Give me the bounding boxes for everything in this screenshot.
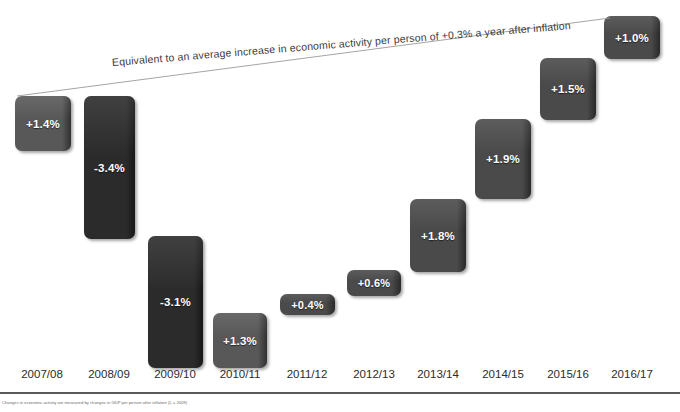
axis-tick-2016-17: 2016/17 bbox=[611, 368, 653, 380]
bar-2016-17: +1.0% bbox=[604, 16, 660, 59]
axis-tick-2008-09: 2008/09 bbox=[88, 368, 130, 380]
bar-2008-09: -3.4% bbox=[84, 96, 135, 239]
axis-rule bbox=[0, 392, 680, 394]
axis-tick-2015-16: 2015/16 bbox=[547, 368, 589, 380]
bar-2013-14: +1.8% bbox=[410, 199, 466, 272]
bar-value-label: +1.5% bbox=[551, 83, 585, 95]
x-axis-labels: 2007/082008/092009/102010/112011/122012/… bbox=[0, 368, 680, 392]
bar-2010-11: +1.3% bbox=[213, 313, 267, 368]
bar-value-label: +1.9% bbox=[486, 153, 520, 165]
axis-tick-2013-14: 2013/14 bbox=[417, 368, 459, 380]
bar-value-label: -3.1% bbox=[160, 296, 191, 308]
bar-value-label: +1.8% bbox=[421, 230, 455, 242]
axis-tick-2012-13: 2012/13 bbox=[353, 368, 395, 380]
bar-value-label: +0.6% bbox=[358, 277, 391, 289]
axis-tick-2010-11: 2010/11 bbox=[220, 368, 261, 380]
bar-value-label: +0.4% bbox=[291, 299, 324, 311]
bar-value-label: +1.4% bbox=[26, 118, 60, 130]
bar-value-label: -3.4% bbox=[94, 162, 125, 174]
bar-2014-15: +1.9% bbox=[475, 119, 531, 199]
axis-tick-2014-15: 2014/15 bbox=[482, 368, 524, 380]
axis-tick-2011-12: 2011/12 bbox=[287, 368, 328, 380]
bar-2007-08: +1.4% bbox=[15, 96, 71, 151]
waterfall-chart: +1.4%-3.4%-3.1%+1.3%+0.4%+0.6%+1.8%+1.9%… bbox=[0, 0, 680, 412]
bar-2012-13: +0.6% bbox=[347, 270, 401, 296]
bar-2011-12: +0.4% bbox=[280, 294, 335, 315]
chart-plot-area: +1.4%-3.4%-3.1%+1.3%+0.4%+0.6%+1.8%+1.9%… bbox=[0, 0, 680, 370]
bar-2015-16: +1.5% bbox=[540, 58, 596, 120]
bar-2009-10: -3.1% bbox=[148, 236, 203, 368]
bar-value-label: +1.0% bbox=[615, 32, 649, 44]
footnote: Changes in economic activity are measure… bbox=[2, 400, 678, 405]
axis-tick-2007-08: 2007/08 bbox=[21, 368, 63, 380]
axis-tick-2009-10: 2009/10 bbox=[154, 368, 196, 380]
bar-value-label: +1.3% bbox=[223, 335, 257, 347]
